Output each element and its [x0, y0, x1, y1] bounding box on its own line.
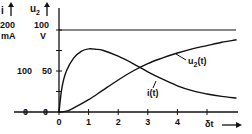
u2-axis-unit: V — [40, 32, 46, 41]
u2-axis-mid-label: 50 — [42, 67, 52, 76]
i-axis-symbol: i — [1, 6, 4, 15]
x-axis-arrow — [222, 122, 242, 128]
u2-axis-arrow — [44, 2, 50, 16]
u2-subscript: 2 — [36, 9, 40, 16]
i-axis-unit: mA — [1, 32, 16, 41]
x-tick-label: 4 — [175, 118, 180, 127]
i-curve-label: i(t) — [147, 89, 159, 98]
series-u2 — [59, 40, 237, 112]
x-tick-label: 2 — [116, 118, 121, 127]
i-axis-max-label: 200 — [0, 21, 15, 30]
u2-curve-label: u2(t) — [188, 57, 206, 69]
x-tick-label: 3 — [145, 118, 150, 127]
series-i — [59, 49, 237, 112]
x-axis-label: δt — [205, 120, 213, 129]
i-axis-mid-label: 100 — [17, 67, 32, 76]
i-label-leader — [153, 81, 156, 88]
x-tick-label: 0 — [57, 118, 62, 127]
i-axis-arrow — [8, 2, 14, 16]
u2-axis-max-label: 100 — [34, 21, 49, 30]
u2-label-leader — [176, 54, 186, 60]
i-axis-zero-label: 0 — [23, 108, 28, 117]
x-tick-label: 1 — [86, 118, 91, 127]
u2-axis-symbol: u2 — [30, 4, 40, 17]
u2-axis-zero-label: 0 — [43, 108, 48, 117]
